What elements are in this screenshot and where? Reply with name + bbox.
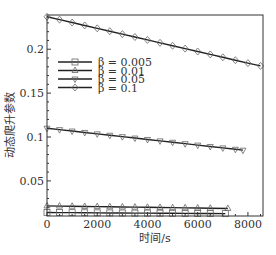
- triangle-down-marker-icon: [72, 77, 78, 83]
- triangle-up-marker-icon: [170, 204, 176, 210]
- x-tick-label: 2000: [83, 218, 111, 231]
- x-tick-label: 4000: [133, 218, 161, 231]
- axes: 020004000600080000.050.10.150.2: [20, 15, 264, 231]
- triangle-up-marker-icon: [182, 204, 188, 210]
- y-tick-label: 0.15: [20, 87, 45, 100]
- triangle-up-marker-icon: [82, 203, 88, 209]
- legend-item: β = 0.1: [58, 82, 138, 95]
- triangle-up-marker-icon: [94, 203, 100, 209]
- triangle-up-marker-icon: [119, 203, 125, 209]
- triangle-up-marker-icon: [157, 204, 163, 210]
- plot-area: [44, 13, 263, 216]
- line-chart: 020004000600080000.050.10.150.2 β = 0.00…: [0, 0, 276, 255]
- series-line: [47, 212, 225, 213]
- triangle-up-marker-icon: [207, 205, 213, 211]
- x-axis-label: 时间/s: [139, 232, 171, 245]
- x-tick-label: 6000: [184, 218, 212, 231]
- triangle-up-marker-icon: [195, 205, 201, 211]
- triangle-up-marker-icon: [72, 67, 78, 73]
- series-line: [47, 17, 260, 66]
- triangle-up-marker-icon: [57, 203, 63, 209]
- x-tick-label: 8000: [234, 218, 262, 231]
- triangle-down-marker-icon: [240, 148, 246, 154]
- series-2: [44, 126, 246, 153]
- triangle-up-marker-icon: [132, 204, 138, 210]
- series-1: [44, 202, 231, 210]
- triangle-up-marker-icon: [144, 204, 150, 210]
- triangle-up-marker-icon: [69, 203, 75, 209]
- legend-label: β = 0.1: [98, 82, 138, 95]
- plot-frame: [47, 15, 263, 216]
- legend: β = 0.005β = 0.01β = 0.05β = 0.1: [58, 56, 152, 95]
- triangle-up-marker-icon: [107, 203, 113, 209]
- series-line: [47, 128, 243, 150]
- series-3: [44, 13, 263, 69]
- y-tick-label: 0.1: [27, 131, 45, 144]
- y-tick-label: 0.05: [20, 175, 45, 188]
- y-axis-label: 动态爬升参数: [3, 92, 17, 158]
- x-tick-label: 0: [44, 218, 51, 231]
- triangle-up-marker-icon: [225, 205, 231, 211]
- y-tick-label: 0.2: [27, 43, 45, 56]
